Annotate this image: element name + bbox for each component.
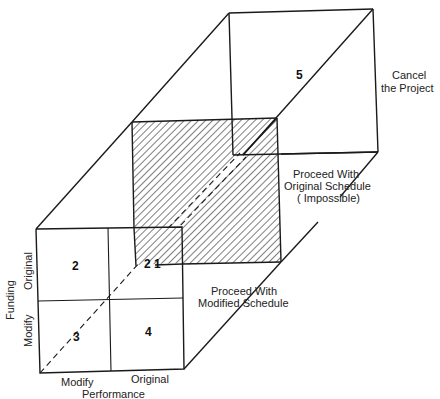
region-2-1-corner-label: 2 1 <box>144 257 161 271</box>
plane-cancel-label-line2: the Project <box>381 82 434 94</box>
funding-modify-tick: Modify <box>22 314 34 347</box>
region-3-label: 3 <box>73 330 80 344</box>
plane-original-label-line3: ( Impossible) <box>297 192 360 204</box>
cube-drawing: 2 2 1 3 4 5 Modify Original Performance … <box>0 0 440 399</box>
performance-original-tick: Original <box>131 373 169 385</box>
plane-original-label-line2: Original Schedule <box>284 180 371 192</box>
region-2-label: 2 <box>72 259 79 273</box>
funding-original-tick: Original <box>22 252 34 290</box>
region-4-label: 4 <box>145 325 152 339</box>
plane-original-label-line1: Proceed With <box>293 168 359 180</box>
region-5-label: 5 <box>296 68 303 82</box>
plane-modified-label-line2: Modified Schedule <box>198 297 289 309</box>
performance-modify-tick: Modify <box>61 376 94 388</box>
funding-axis-title: Funding <box>4 280 16 320</box>
front-plane-modified-schedule <box>36 227 184 373</box>
decision-cube-diagram: 2 2 1 3 4 5 Modify Original Performance … <box>0 0 440 399</box>
plane-modified-label-line1: Proceed With <box>211 285 277 297</box>
performance-axis-title: Performance <box>82 388 145 399</box>
plane-cancel-label-line1: Cancel <box>392 69 426 81</box>
